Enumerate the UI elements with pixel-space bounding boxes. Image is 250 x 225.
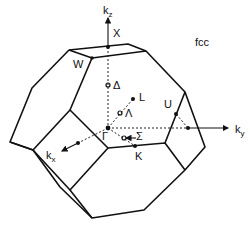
gamma-label: Γ	[102, 131, 108, 142]
delta-label: Δ	[113, 80, 120, 91]
kx-point	[76, 141, 80, 145]
ky-label: ky	[235, 124, 245, 135]
sigma-label: Σ	[136, 131, 143, 142]
u-point	[174, 112, 178, 116]
kx-label: kx	[46, 150, 56, 161]
w-label: W	[73, 59, 83, 70]
x-label: X	[113, 28, 120, 39]
kx-axis	[62, 143, 78, 151]
lambda-point	[118, 111, 122, 115]
l-point	[131, 97, 135, 101]
k-label: K	[135, 151, 142, 162]
w-point	[90, 56, 94, 60]
l-label: L	[139, 92, 145, 103]
u-label: U	[164, 99, 172, 110]
kz-label: kz	[103, 5, 113, 16]
sigma-point	[122, 136, 126, 140]
fcc-label: fcc	[195, 37, 209, 48]
k-point	[133, 144, 137, 148]
lambda-label: Λ	[125, 108, 132, 119]
x-point	[106, 45, 110, 49]
ky-point	[186, 126, 190, 130]
